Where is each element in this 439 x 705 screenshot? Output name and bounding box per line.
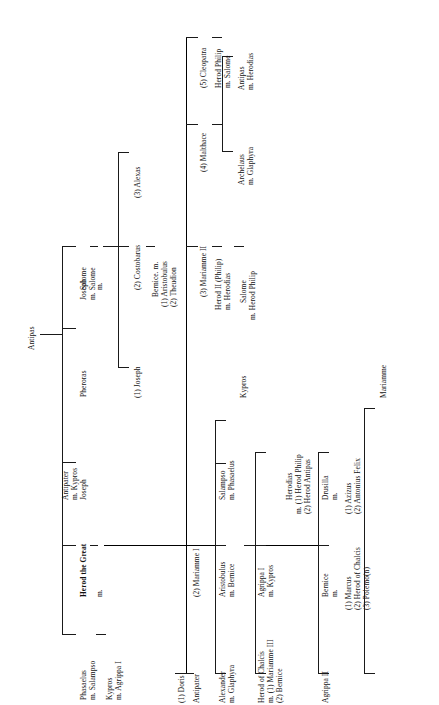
node-alexander-glaphyra: Alexander m. Glaphyra — [219, 665, 236, 703]
connector-salome-child-tick — [234, 246, 244, 247]
connector-costobarus — [118, 246, 129, 247]
connector-mariamme-II — [186, 246, 198, 247]
node-salome-marriage: m. — [96, 282, 105, 290]
node-agrippa-I-kypros-name: Agrippa I m. Kypros — [257, 565, 275, 597]
node-antipas-child-m: m. Herodias — [247, 53, 256, 90]
connector-mariamme-spine — [364, 408, 365, 673]
connector-aristobulus-children-spine — [255, 452, 256, 673]
node-agrippa-I-kypros: Agrippa I m. Kypros — [258, 565, 275, 597]
connector-antipas-children-spine — [62, 246, 63, 634]
family-tree-canvas: Antipas Joseph m. Salome Pheroras Joseph… — [0, 0, 439, 705]
connector-herod-philip-tick — [212, 37, 222, 38]
connector-herod-marriage-left — [90, 545, 98, 546]
connector-phasaelus — [62, 634, 76, 635]
connector-doris-antipater — [186, 673, 194, 674]
connector-aristobulus-to-children — [244, 545, 255, 546]
node-herod-the-great: Herod the Great — [80, 544, 89, 597]
connector-aristobulus — [215, 545, 226, 546]
node-antipater-kypros-name: Antipater m. Kypros — [61, 468, 79, 500]
connector-agrippa-I-to-children — [266, 545, 318, 546]
node-mariamme: Mariamme — [380, 365, 389, 398]
node-salampso-phasaelus-name: Salampso m. Phasaelus — [218, 460, 236, 500]
node-pheroras: Pheroras — [80, 370, 89, 397]
node-antipater: Antipater — [193, 674, 202, 703]
connector-kypros — [215, 420, 226, 421]
connector-agrippa-I — [255, 545, 266, 546]
connector-antipater-kypros — [62, 462, 76, 463]
connector-alexas — [118, 152, 129, 153]
connector-mariamme-I-children — [186, 545, 215, 546]
node-phasaelus-salampso-name: Phasaelus m. Salampso — [79, 661, 97, 700]
node-herodias-m2: (2) Herod Antipas — [304, 459, 313, 514]
node-antipas-root: Antipas — [28, 326, 37, 350]
node-salome: Salome — [80, 267, 89, 290]
node-bernice-sub-m: m. — [331, 589, 340, 597]
connector-herod-marriage-right — [104, 545, 186, 546]
node-herod-philip-m: m. Salome — [224, 55, 233, 88]
node-joseph-mid: Joseph — [80, 479, 89, 500]
node-phasaelus-salampso: Phasaelus m. Salampso — [80, 661, 97, 700]
connector-salome-marriage2 — [103, 246, 118, 247]
connector-herod-the-great — [62, 545, 76, 546]
node-drusilla-2: (2) Antonius Felix — [354, 458, 363, 514]
connector-drusilla — [318, 452, 329, 453]
node-archelaus-m: m. Glaphyra — [247, 147, 256, 185]
connector-pheroras — [62, 328, 76, 329]
connector-mariamme-bottom — [364, 673, 375, 674]
connector-salome — [62, 246, 76, 247]
node-aristobulus-bernice-name: Aristobulus m. Bernice — [218, 561, 236, 597]
node-salome-child-m: m. Herod Philip — [249, 271, 258, 320]
node-kypros-agrippa-name: Kypros m. Agrippa I — [105, 661, 123, 700]
node-cleopatra-5: (5) Cleopatra — [200, 48, 209, 89]
node-herod-marriage: m. — [96, 589, 105, 597]
connector-herodias — [255, 452, 266, 453]
node-herod-II-philip-m: m. Herodias — [224, 273, 233, 310]
connector-malthace-to-children — [212, 124, 222, 125]
node-alexas-3: (3) Alexas — [134, 166, 143, 198]
node-aristobulus-bernice: Aristobulus m. Bernice — [219, 561, 236, 597]
node-mariamme-I-2: (2) Mariamme I — [193, 548, 202, 597]
node-kypros-agrippa: Kypros m. Agrippa I — [106, 661, 123, 700]
node-herod-of-chalcis-m2: (2) Bernice — [276, 668, 285, 703]
connector-salome-marriage — [90, 246, 98, 247]
connector-mariamme-top — [364, 408, 375, 409]
connector-bernice — [318, 545, 329, 546]
connector-mariamme-I-children-spine — [215, 420, 216, 673]
connector-malthace — [186, 124, 198, 125]
connector-agrippa-I-children-spine — [318, 452, 319, 673]
node-bernice-m-2: (2) Theudion — [170, 267, 179, 307]
connector-archelaus — [222, 151, 233, 152]
node-alexander-glaphyra-name: Alexander m. Glaphyra — [218, 665, 236, 703]
connector-bernice-tick — [146, 246, 155, 247]
node-doris-1: (1) Doris — [178, 675, 187, 703]
node-joseph-1: (1) Joseph — [134, 366, 143, 398]
node-antipater-kypros: Antipater m. Kypros — [62, 468, 79, 500]
connector-joseph1 — [118, 367, 129, 368]
node-mariamme-II-3: (3) Mariamme II — [200, 246, 209, 297]
node-agrippa-II: Agrippa II — [322, 671, 331, 703]
connector-cleopatra — [186, 37, 198, 38]
node-kypros: Kypros — [240, 376, 249, 398]
node-salampso-phasaelus: Salampso m. Phasaelus — [219, 460, 236, 500]
connector-antipas-stub — [40, 334, 62, 335]
node-drusilla-sub-m: m. — [331, 492, 340, 500]
connector-doris — [175, 673, 186, 674]
connector-herodII-tick — [212, 246, 222, 247]
connector-phasaelus-kypros-tick — [96, 634, 106, 635]
node-malthace-4: (4) Malthace — [200, 133, 209, 172]
connector-salome-spouses-spine — [118, 152, 119, 367]
connector-herod-wives-spine — [186, 37, 187, 673]
node-costobarus-2: (2) Costobarus — [134, 245, 143, 290]
